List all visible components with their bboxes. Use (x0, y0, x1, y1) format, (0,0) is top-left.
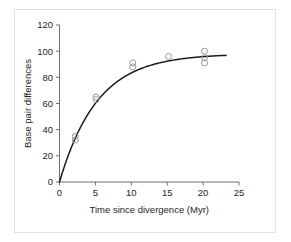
x-axis-title: Time since divergence (Myr) (90, 204, 209, 215)
y-tick-marks (56, 25, 60, 182)
fit-curve (60, 55, 227, 182)
x-tick-label: 15 (162, 187, 173, 198)
y-tick-label: 120 (37, 19, 53, 30)
y-tick-label: 100 (37, 46, 53, 57)
data-point-group (72, 48, 207, 143)
y-tick-label-group: 020406080100120 (37, 19, 53, 187)
y-tick-label: 20 (42, 150, 53, 161)
x-tick-label: 25 (234, 187, 245, 198)
x-tick-label-group: 0510152025 (57, 187, 244, 198)
x-tick-label: 20 (198, 187, 209, 198)
y-tick-label: 60 (42, 98, 53, 109)
x-tick-label: 5 (93, 187, 98, 198)
x-tick-label: 10 (126, 187, 137, 198)
data-point (130, 64, 136, 70)
y-tick-label: 0 (48, 176, 53, 187)
scatter-plot: 020406080100120 0510152025 Base pair dif… (0, 0, 291, 242)
y-axis-title: Base pair differences (22, 59, 33, 148)
x-tick-marks (60, 182, 240, 186)
x-tick-label: 0 (57, 187, 62, 198)
chart-figure: 020406080100120 0510152025 Base pair dif… (0, 0, 291, 242)
y-tick-label: 40 (42, 124, 53, 135)
y-tick-label: 80 (42, 72, 53, 83)
data-point (202, 48, 208, 54)
data-point (166, 53, 172, 59)
